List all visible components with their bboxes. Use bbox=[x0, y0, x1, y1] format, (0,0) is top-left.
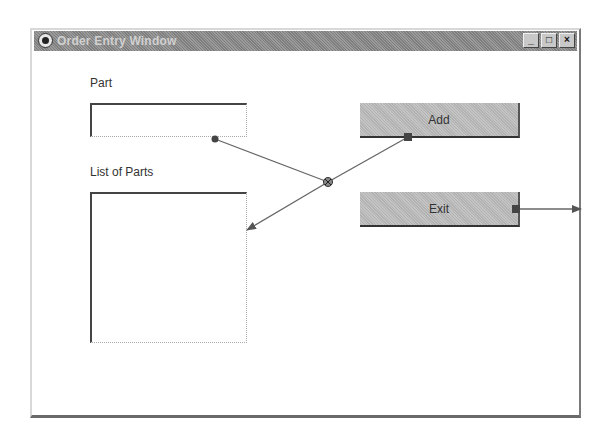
connection-add-to-junction[interactable] bbox=[328, 137, 408, 182]
add-connector-square[interactable] bbox=[404, 133, 412, 141]
connections-overlay bbox=[0, 0, 603, 435]
exit-connector-square[interactable] bbox=[512, 205, 520, 213]
connection-part-to-junction[interactable] bbox=[215, 139, 328, 182]
connection-junction-to-list[interactable] bbox=[247, 182, 328, 230]
part-connector-dot[interactable] bbox=[212, 136, 219, 143]
